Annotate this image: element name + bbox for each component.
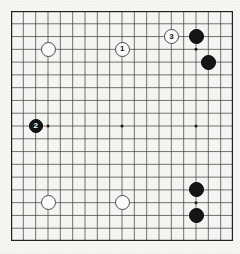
stone-move-3-white[interactable]: 3 <box>164 29 179 44</box>
stone-white-lower-mid[interactable] <box>115 195 130 210</box>
stone-white-lower-left[interactable] <box>41 195 56 210</box>
stone-black-lower-right-a[interactable] <box>189 182 204 197</box>
go-diagram: 132 <box>0 0 240 254</box>
stone-black-upper-right-b[interactable] <box>201 55 216 70</box>
stone-move-number: 3 <box>165 30 178 43</box>
stone-move-number: 2 <box>30 120 42 132</box>
goban[interactable]: 132 <box>11 11 233 241</box>
stone-black-upper-right-a[interactable] <box>189 29 204 44</box>
stone-white-upper-left[interactable] <box>41 42 56 57</box>
stone-move-2-black[interactable]: 2 <box>29 119 43 133</box>
stone-black-lower-right-b[interactable] <box>189 208 204 223</box>
stone-move-number: 1 <box>116 43 129 56</box>
stone-move-1-white[interactable]: 1 <box>115 42 130 57</box>
